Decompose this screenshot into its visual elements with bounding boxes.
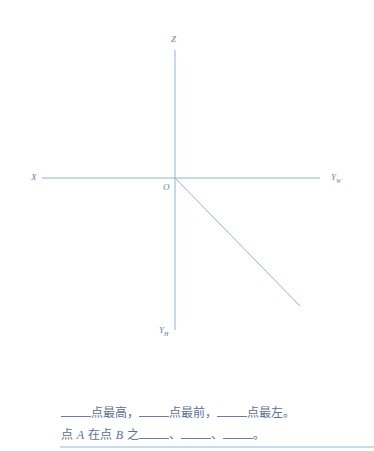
question-line-1: 点最高，点最前，点最左。 xyxy=(61,403,295,420)
answer-blank-front[interactable] xyxy=(139,404,169,417)
z-axis-label: Z xyxy=(171,34,176,44)
yh-axis-label: YH xyxy=(159,325,168,337)
bottom-divider xyxy=(60,446,374,448)
answer-blank-highest[interactable] xyxy=(61,404,91,417)
projection-axes-diagram xyxy=(0,0,374,451)
x-axis-label: X xyxy=(31,172,37,182)
question-line-2: 点 A 在点 B 之、、。 xyxy=(61,425,265,443)
origin-label: O xyxy=(163,182,170,192)
diagonal-45-line xyxy=(175,178,300,306)
answer-blank-1[interactable] xyxy=(139,426,169,439)
answer-blank-3[interactable] xyxy=(223,426,253,439)
yw-axis-label: YW xyxy=(331,172,341,184)
answer-blank-left[interactable] xyxy=(217,404,247,417)
answer-blank-2[interactable] xyxy=(181,426,211,439)
